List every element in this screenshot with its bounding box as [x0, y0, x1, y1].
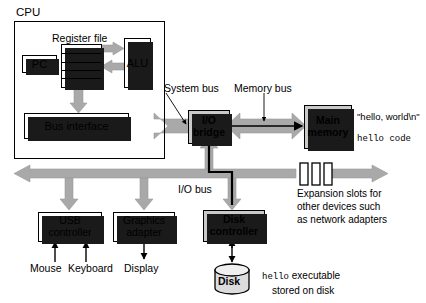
disk-controller: Disk controller: [203, 210, 265, 242]
disk-controller-line2: controller: [210, 226, 258, 238]
io-bus-to-usb-arrow: [60, 178, 78, 210]
usb-controller: USB controller: [38, 212, 102, 242]
keyboard-label: Keyboard: [68, 262, 113, 274]
io-bridge: I/O bridge: [188, 110, 230, 144]
disk-note-executable-name: hello: [262, 272, 289, 282]
expansion-slots-caption: Expansion slots for other devices such a…: [297, 188, 387, 226]
register-row-divider: [62, 62, 101, 63]
io-bus-to-graphics-arrow: [135, 178, 153, 210]
disk-note-line1-rest: executable: [289, 270, 340, 281]
register-row-divider: [62, 53, 101, 54]
alu-label: ALU: [127, 57, 148, 69]
cpu-label: CPU: [16, 6, 40, 19]
memory-bus-label: Memory bus: [234, 82, 292, 94]
register-row-divider: [62, 70, 101, 71]
disk-label: Disk: [218, 275, 240, 287]
mouse-label: Mouse: [30, 262, 62, 274]
pc-label: PC: [32, 58, 47, 70]
hardware-organization-diagram: CPU Register file PC ALU Bus interface S…: [0, 0, 426, 303]
register-file: [61, 44, 102, 88]
memory-contents-string: "hello, world\n": [357, 112, 420, 123]
display-label: Display: [124, 262, 158, 274]
disk-note-line2: stored on disk: [262, 284, 340, 297]
register-row-divider: [62, 78, 101, 79]
main-memory-label-line2: memory: [308, 127, 349, 139]
disk-note: hello executable stored on disk: [262, 269, 340, 297]
graphics-adapter: Graphics adapter: [113, 212, 175, 242]
bus-interface-label: Bus interface: [44, 120, 108, 132]
io-bus-label: I/O bus: [178, 183, 212, 195]
disk-note-line1: hello executable: [262, 269, 340, 284]
expansion-caption-line2: other devices such: [297, 201, 387, 214]
expansion-caption-line1: Expansion slots for: [297, 188, 387, 201]
graphics-adapter-line2: adapter: [126, 227, 162, 239]
main-memory: Main memory: [304, 105, 352, 149]
io-bridge-label-line2: bridge: [193, 127, 225, 139]
usb-controller-line2: controller: [48, 227, 91, 239]
bus-interface: Bus interface: [24, 113, 129, 139]
memory-contents-code: hello code: [357, 134, 411, 144]
alu: ALU: [124, 38, 151, 88]
pc-register: PC: [22, 55, 57, 73]
expansion-slots: [300, 163, 332, 185]
system-bus-label: System bus: [164, 82, 219, 94]
expansion-caption-line3: as network adapters: [297, 214, 387, 227]
register-file-label: Register file: [52, 32, 107, 44]
